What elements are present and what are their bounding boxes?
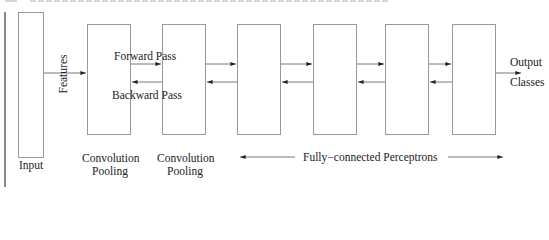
conv1-label-line1: Convolution [82,152,138,165]
conv2-label-line2: Pooling [157,165,213,178]
forward-pass-label: Forward Pass [114,50,176,63]
output-label-line2: Classes [510,76,545,89]
fully-connected-label: Fully−connected Perceptrons [303,151,438,164]
features-label: Features [57,55,69,94]
output-label-line1: Output [510,56,542,69]
backward-pass-label: Backward Pass [112,89,182,102]
conv2-label-line1: Convolution [157,152,213,165]
input-label: Input [19,159,43,172]
conv1-label-line2: Pooling [82,165,138,178]
